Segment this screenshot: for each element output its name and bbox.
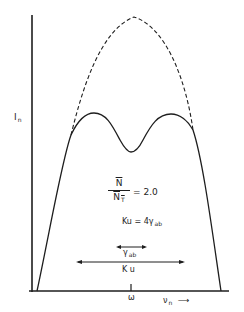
ku-arrow-right-head	[179, 260, 185, 264]
ku-arrow-label: K u	[122, 266, 135, 274]
x-axis-label-sub: n	[168, 299, 172, 306]
ku-arrow-left-head	[76, 260, 82, 264]
x-axis-label: νn ⟶	[163, 297, 189, 305]
ratio-value: = 2.0	[133, 188, 158, 197]
x-axis-label-main: ν	[163, 296, 167, 305]
gamma-arrow-label: γab	[123, 249, 136, 257]
ku-relation-gamma-sub: ab	[155, 220, 163, 227]
fraction-bar	[108, 190, 130, 191]
y-axis-label: In	[14, 113, 21, 122]
gamma-arrow-label-sub: ab	[129, 251, 137, 258]
omega-label: ω	[128, 294, 135, 302]
gamma-arrow-right-head	[142, 245, 147, 249]
ratio-fraction: N NT	[108, 178, 130, 203]
gamma-arrow-left-head	[116, 245, 121, 249]
ratio-denominator-main: N	[113, 192, 120, 202]
ratio-denominator: NT	[108, 192, 130, 203]
x-axis-direction-arrow-icon: ⟶	[178, 296, 189, 305]
y-axis-label-sub: n	[18, 116, 22, 123]
ku-relation: Ku = 4γab	[122, 218, 162, 226]
ratio-numerator: N	[108, 178, 130, 189]
line-profile-diagram: In N NT = 2.0 Ku = 4γab γab K u ω νn ⟶	[0, 0, 244, 312]
gamma-arrow-label-main: γ	[123, 248, 128, 257]
ku-relation-lhs: Ku = 4	[122, 217, 149, 226]
dashed-gaussian-curve	[71, 17, 193, 135]
ratio-denominator-sub: T	[121, 196, 125, 203]
y-axis-label-main: I	[14, 112, 17, 122]
ku-relation-gamma: γ	[149, 217, 154, 226]
